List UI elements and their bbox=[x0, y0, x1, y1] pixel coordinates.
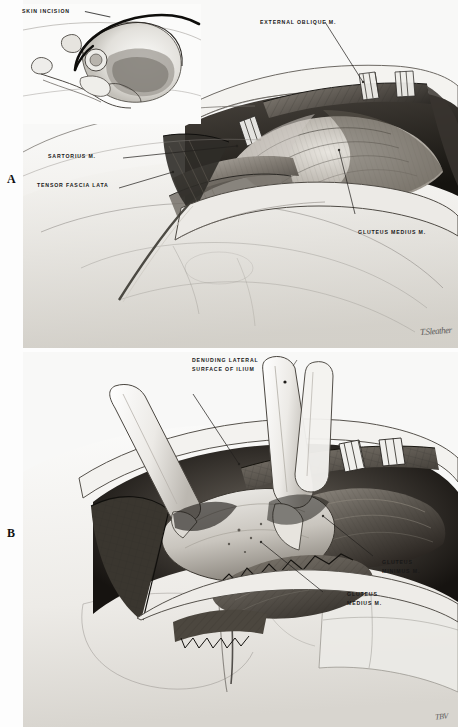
label-gluteus-minimus: GLUTEUS MINIMUS M. bbox=[382, 558, 452, 575]
panel-b: TBV bbox=[23, 352, 458, 727]
label-gluteus-medius-b-line-2: MEDIUS M. bbox=[347, 600, 382, 606]
label-denuding-lateral-surface: DENUDING LATERAL SURFACE OF ILIUM bbox=[192, 356, 312, 373]
label-skin-incision: SKIN INCISION bbox=[22, 7, 70, 16]
figure-page: T.Sleather SKIN INCISION EXTERNAL OBLIQU… bbox=[0, 0, 458, 727]
panel-a: T.Sleather bbox=[23, 0, 458, 348]
label-gluteus-medius-b: GLUTEUS MEDIUS M. bbox=[347, 590, 417, 607]
label-gluteus-medius-a: GLUTEUS MEDIUS M. bbox=[358, 228, 426, 237]
inset-artwork bbox=[23, 4, 201, 124]
label-sartorius: SARTORIUS M. bbox=[48, 152, 96, 161]
label-gluteus-minimus-line-2: MINIMUS M. bbox=[382, 568, 420, 574]
panel-letter-a: A bbox=[7, 172, 16, 187]
panel-b-artwork bbox=[23, 352, 458, 727]
skin-incision-inset bbox=[23, 4, 201, 124]
label-denuding-line-1: DENUDING LATERAL bbox=[192, 357, 259, 363]
label-denuding-line-2: SURFACE OF ILIUM bbox=[192, 366, 255, 372]
label-external-oblique: EXTERNAL OBLIQUE M. bbox=[260, 18, 336, 27]
artist-signature-b: TBV bbox=[435, 712, 448, 722]
label-gluteus-medius-b-line-1: GLUTEUS bbox=[347, 591, 378, 597]
panel-letter-b: B bbox=[7, 526, 15, 541]
label-tensor-fascia-lata: TENSOR FASCIA LATA bbox=[37, 181, 109, 190]
label-gluteus-minimus-line-1: GLUTEUS bbox=[382, 559, 413, 565]
